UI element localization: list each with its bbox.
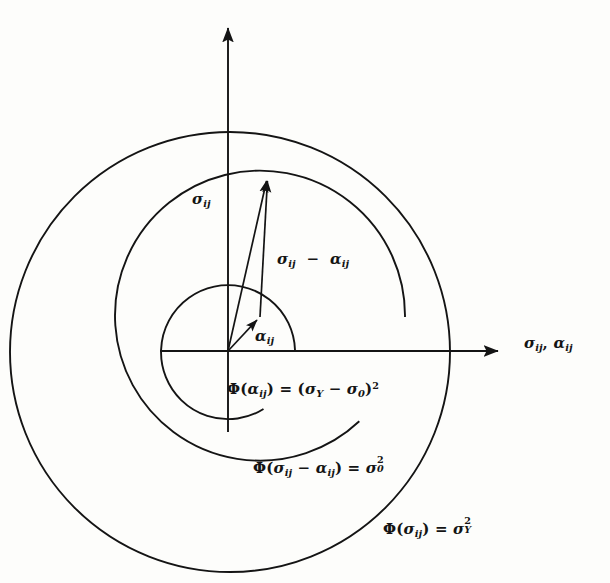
stress-vector-arrow [228,181,267,351]
bounding-surface-circle [10,132,450,572]
yield-surface-label: Φ(σij − αij) = σ20 [253,458,385,478]
backstress-surface-label: Φ(αij) = (σY − σ0)2 [227,381,379,399]
relative-stress-vector-label: σij − αij [277,252,349,269]
backstress-vector-label: αij [255,329,274,346]
yield-surface-figure: σij σij − αij αij σij, αij Φ(αij) = (σY … [0,0,610,583]
x-axis-label: σij, αij [524,336,573,353]
bounding-surface-label: Φ(σij) = σ2Y [383,519,472,539]
figure-canvas [0,0,610,583]
stress-vector-label: σij [192,192,211,209]
